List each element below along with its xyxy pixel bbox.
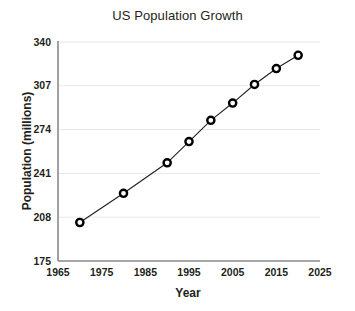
data-point [207,117,214,124]
data-point [185,138,192,145]
data-point [164,159,171,166]
data-point [76,219,83,226]
x-tick-label: 2025 [308,266,332,278]
x-tick-label: 1965 [46,266,70,278]
y-tick-label: 241 [33,167,51,179]
x-tick-label: 1985 [134,266,158,278]
data-point [295,52,302,59]
y-tick-label: 274 [33,123,51,135]
y-tick-label: 175 [33,255,51,267]
data-point [273,65,280,72]
y-tick-label: 307 [33,79,51,91]
y-tick-label: 208 [33,211,51,223]
data-points [76,52,302,226]
y-axis-ticks: 175208241274307340 [33,36,51,267]
x-tick-label: 2015 [265,266,289,278]
axis-lines [58,41,320,261]
x-tick-label: 2005 [221,266,245,278]
data-point [251,81,258,88]
chart-container: US Population Growth Population (million… [0,0,355,311]
data-point [229,99,236,106]
x-tick-label: 1995 [177,266,201,278]
x-axis-ticks: 1965197519851995200520152025 [46,266,332,278]
x-tick-label: 1975 [90,266,114,278]
plot-area: 175208241274307340 196519751985199520052… [0,0,355,311]
data-point [120,190,127,197]
y-tick-label: 340 [33,36,51,48]
